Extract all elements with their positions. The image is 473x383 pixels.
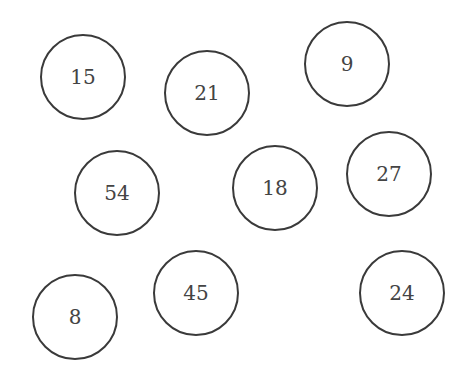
- number-circles-diagram: 15 21 9 54 18 27 8 45 24: [0, 0, 473, 383]
- circle-21: 21: [164, 50, 250, 136]
- circle-label: 21: [194, 83, 219, 103]
- circle-label: 9: [341, 54, 354, 74]
- circle-45: 45: [153, 250, 239, 336]
- circle-label: 24: [389, 283, 414, 303]
- circle-9: 9: [304, 21, 390, 107]
- circle-27: 27: [346, 131, 432, 217]
- circle-label: 27: [376, 164, 401, 184]
- circle-label: 54: [104, 183, 129, 203]
- circle-54: 54: [74, 150, 160, 236]
- circle-label: 15: [70, 67, 95, 87]
- circle-15: 15: [40, 34, 126, 120]
- circle-label: 8: [69, 307, 82, 327]
- circle-8: 8: [32, 274, 118, 360]
- circle-24: 24: [359, 250, 445, 336]
- circle-label: 18: [262, 178, 287, 198]
- circle-label: 45: [183, 283, 208, 303]
- circle-18: 18: [232, 145, 318, 231]
